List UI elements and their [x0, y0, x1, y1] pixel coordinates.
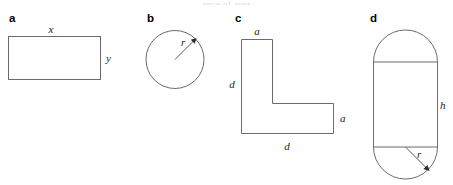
- panel-letter-c: c: [235, 12, 242, 24]
- stadium-shape: [374, 30, 438, 179]
- panel-letter-b: b: [147, 12, 154, 24]
- l-shape-right-label-a: a: [340, 112, 346, 124]
- panel-b: b r: [146, 12, 204, 89]
- stadium-radius-label-r: r: [417, 148, 422, 160]
- rectangle-height-label-y: y: [105, 52, 111, 64]
- l-shape-left-label-d: d: [229, 78, 235, 90]
- figure-canvas: ance of area a x y b r c a d a d: [0, 0, 453, 185]
- l-shape: [242, 40, 334, 134]
- panel-c: c a d a d: [229, 12, 346, 152]
- panel-letter-d: d: [370, 12, 377, 24]
- panel-letter-a: a: [9, 12, 16, 24]
- stadium-height-label-h: h: [440, 99, 446, 111]
- l-shape-top-label-a: a: [254, 25, 260, 37]
- rectangle-shape: [9, 37, 101, 80]
- l-shape-bottom-label-d: d: [284, 140, 290, 152]
- circle-radius-label-r: r: [181, 36, 186, 48]
- panel-d: d h r: [370, 12, 446, 179]
- panel-a: a x y: [9, 12, 112, 80]
- figure-svg: a x y b r c a d a d d: [0, 0, 453, 185]
- rectangle-width-label-x: x: [48, 23, 54, 35]
